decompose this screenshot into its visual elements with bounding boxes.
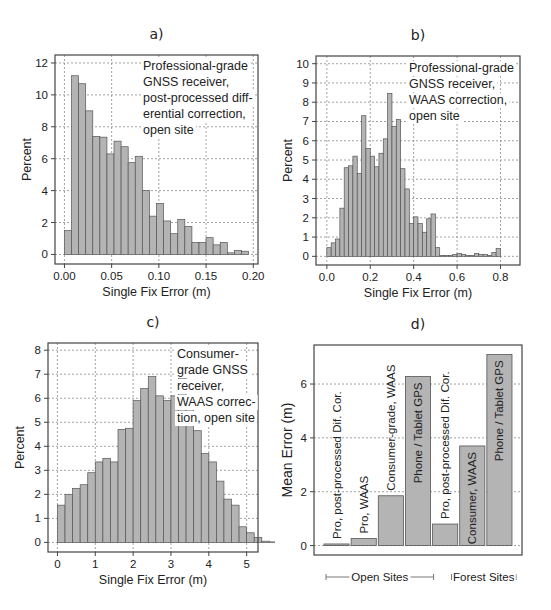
chart-panel-b: b)0123456789100.00.20.40.60.8Professiona… [275,0,551,305]
y-axis-label: Percent [13,425,27,469]
y-tick-label: 8 [42,121,48,133]
y-tick-label: 0 [301,540,307,552]
y-tick-label: 2 [301,486,307,498]
x-axis-label: Single Fix Error (m) [99,573,207,587]
histogram-bar [453,254,457,256]
histogram-bar [80,485,88,543]
histogram-bar [157,203,164,254]
bar-category-label: Phone / Tablet GPS [412,382,424,483]
histogram-bar [388,94,392,257]
histogram-bar [185,227,192,255]
histogram-bar [114,141,121,254]
histogram-bar [427,219,431,257]
svg-text:WAAS correction,: WAAS correction, [409,93,507,107]
svg-text:open site: open site [409,109,460,123]
panel-label-d: d) [411,316,425,332]
y-tick-label: 2 [303,212,309,224]
histogram-bar [440,255,444,256]
histogram-bar [344,168,348,257]
histogram-bar [327,248,331,257]
histogram-bar [375,167,379,257]
y-tick-label: 6 [35,392,41,404]
x-tick-label: 4 [206,558,213,570]
histogram-bar [466,255,470,256]
histogram-bar [349,166,353,257]
y-tick-label: 4 [42,185,49,197]
x-tick-label: 0.2 [362,271,378,283]
y-tick-label: 1 [303,231,309,243]
svg-text:erential correction,: erential correction, [143,107,246,121]
histogram-bar [206,238,213,255]
histogram-bar [401,169,405,257]
histogram-bar [232,505,240,542]
svg-text:grade GNSS: grade GNSS [177,363,248,377]
y-tick-label: 10 [35,89,48,101]
y-tick-label: 3 [35,464,41,476]
histogram-bar [457,253,461,256]
bar-category-label: Pro, WAAS [358,476,370,534]
y-tick-label: 7 [303,115,309,127]
bar-category-label: Phone / Tablet GPS [493,360,505,461]
histogram-bar [86,111,93,255]
x-axis-label: Single Fix Error (m) [364,286,472,300]
y-tick-label: 5 [35,416,41,428]
histogram-bar [163,401,171,543]
y-tick-label: 5 [303,154,309,166]
group-labels: Open SitesForest Sites [326,571,516,583]
histogram-bar [483,254,487,256]
x-tick-label: 0.8 [492,271,508,283]
histogram-bar [479,254,483,256]
histogram-bar [126,428,134,542]
histogram-bar [141,389,149,543]
svg-text:Professional-grade: Professional-grade [409,61,514,75]
histogram-bar [241,251,248,254]
histogram-bar [366,148,370,256]
histogram-bar [128,163,135,255]
y-tick-label: 0 [42,248,48,260]
mean-error-bar [351,539,376,546]
y-tick-label: 4 [301,432,308,444]
histogram-bar [216,481,224,542]
bar-category-label: Pro, post-processed Dif. Cor. [331,391,343,539]
histogram-bar [239,527,247,543]
histogram-bar [234,250,241,254]
histogram-bar [65,494,73,542]
histogram-bar [353,156,357,256]
y-tick-label: 4 [303,173,310,185]
x-tick-label: 2 [130,558,136,570]
bar-category-label: Consumer, WAAS [466,452,478,545]
x-tick-label: 0.6 [449,271,465,283]
histogram-bar [227,253,234,255]
annotation-text: Professional-gradeGNSS receiver,post-pro… [141,59,255,138]
y-tick-label: 9 [303,77,309,89]
x-tick-label: 0.0 [319,271,335,283]
y-tick-label: 0 [303,250,309,262]
chart-panel-c: c)012345678012345Consumer-grade GNSSrece… [0,305,275,610]
histogram-bar [474,253,478,256]
histogram-bar [156,396,164,543]
histogram-bar [340,208,344,256]
histogram-bar [379,153,383,256]
histogram-bar [121,147,128,255]
panel-label-b: b) [411,27,425,43]
y-tick-label: 3 [303,193,309,205]
histogram-bar [370,156,374,256]
histogram-bar [209,462,217,542]
chart-b-svg: b)0123456789100.00.20.40.60.8Professiona… [275,0,551,305]
histogram-bar [164,221,171,255]
histogram-bar [171,234,178,255]
chart-panel-d: d)0246Pro, post-processed Dif. Cor.Pro, … [275,305,551,610]
panel-label-c: c) [146,314,159,330]
mean-error-bar [433,524,458,546]
y-tick-label: 6 [303,135,309,147]
histogram-bar [135,156,142,254]
histogram-bar [496,249,500,257]
histogram-bar [220,242,227,254]
histogram-bar [142,191,149,255]
histogram-bar [192,242,199,254]
chart-c-svg: c)012345678012345Consumer-grade GNSSrece… [0,305,275,610]
y-tick-label: 0 [35,536,41,548]
y-axis-label: Mean Error (m) [279,403,295,498]
histogram-bar [444,255,448,256]
x-tick-label: 5 [243,558,249,570]
